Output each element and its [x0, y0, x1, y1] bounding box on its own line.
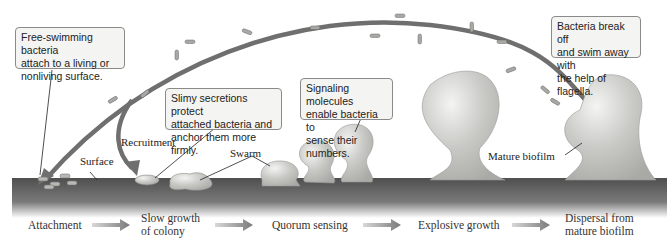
callout-slime: Slimy secretions protect attached bacter…: [165, 88, 282, 130]
slime-colony: [135, 175, 159, 185]
callout-dispersal: Bacteria break off and swim away with th…: [551, 16, 641, 58]
label-swarm: Swarm: [230, 147, 261, 159]
label-recruitment: Recruitment: [121, 136, 175, 148]
stage-slow-growth: Slow growth of colony: [141, 212, 200, 238]
stage-quorum-sensing: Quorum sensing: [272, 219, 348, 232]
stage-attachment: Attachment: [28, 219, 82, 232]
callout-signaling: Signaling molecules enable bacteria to s…: [300, 78, 393, 120]
stage-dispersal: Dispersal from mature biofilm: [565, 212, 634, 238]
swarm-blob: [170, 173, 212, 191]
label-surface: Surface: [80, 155, 114, 167]
callout-attachment: Free-swimming bacteria attach to a livin…: [15, 27, 125, 69]
biofilm-diagram: Free-swimming bacteria attach to a livin…: [0, 0, 667, 248]
biofilm-large: [422, 71, 505, 180]
recruitment-arrowhead: [124, 160, 140, 176]
stage-explosive-growth: Explosive growth: [418, 219, 499, 232]
label-mature-biofilm: Mature biofilm: [488, 150, 555, 162]
